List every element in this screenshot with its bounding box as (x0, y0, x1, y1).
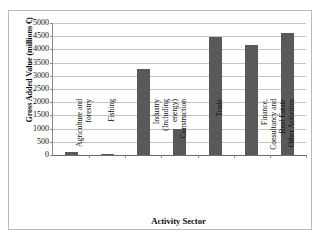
x-axis-tick-label: Finance,Consultancy andReal Estate (260, 99, 287, 157)
y-axis-tick-label: 500 (23, 138, 49, 146)
x-axis-tick-label: Industry(Includingenergy) (152, 99, 179, 157)
bar (245, 45, 258, 155)
y-axis-tick-label: 1500 (23, 111, 49, 119)
bar (137, 69, 150, 155)
x-axis-tick-labels: Agriculture andforestryFishingIndustry(I… (52, 157, 305, 217)
y-axis-tick-labels: 5000450040003500300025002000150010005000 (23, 17, 49, 151)
x-axis-tick-label: Other Activities (287, 99, 296, 157)
x-axis-tick-label: Agriculture andforestry (75, 99, 93, 157)
y-axis-tick-label: 2500 (23, 85, 49, 93)
y-axis-tick-label: 1000 (23, 125, 49, 133)
y-axis-tick-label: 3000 (23, 72, 49, 80)
x-axis-tick-label: Fishing (107, 99, 116, 157)
y-axis-tick-label: 3500 (23, 59, 49, 67)
x-axis-tick-label: Trade (215, 99, 224, 157)
y-axis-tick-label: 2000 (23, 98, 49, 106)
y-axis-tick-label: 0 (23, 151, 49, 159)
y-axis-tick-label: 4500 (23, 32, 49, 40)
y-axis-tick-label: 4000 (23, 45, 49, 53)
y-axis-tick-label: 5000 (23, 19, 49, 27)
y-axis-tickmark (50, 155, 53, 156)
x-axis-title: Activity Sector (52, 216, 305, 226)
x-axis-tick-label: Construction (179, 99, 188, 157)
chart-figure: Gross Added Value (millions €) 500045004… (8, 10, 312, 230)
x-axis-tickmark (306, 155, 307, 158)
